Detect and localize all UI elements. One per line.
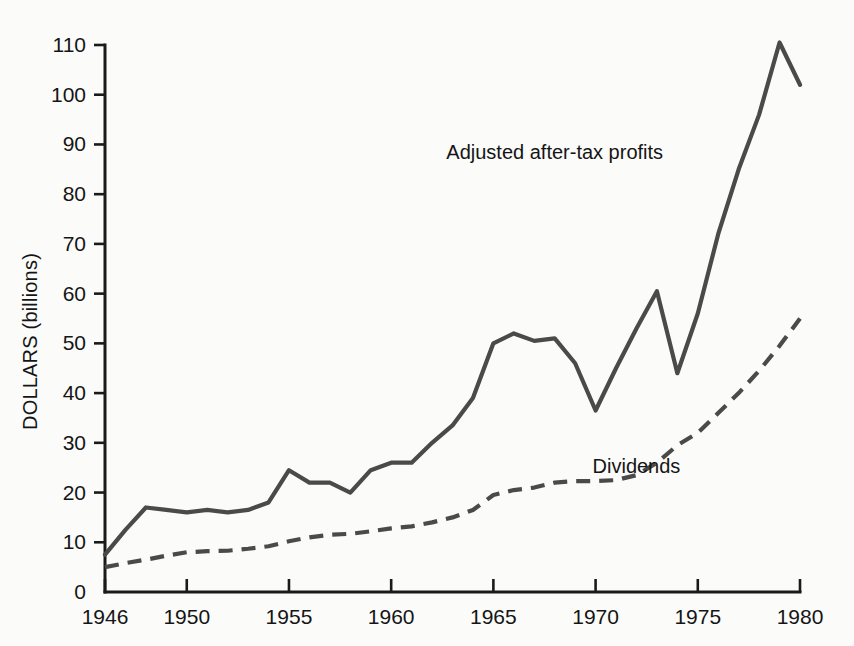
series-annotation-dividends: Dividends	[593, 455, 681, 477]
x-tick-label: 1946	[82, 605, 129, 628]
y-tick-label: 110	[53, 33, 86, 56]
y-axis-title: DOLLARS (billions)	[19, 253, 41, 430]
y-tick-label: 10	[63, 530, 86, 553]
y-tick-label: 30	[63, 431, 86, 454]
y-tick-label: 0	[74, 580, 86, 603]
y-tick-label: 100	[51, 83, 86, 106]
y-tick-label: 50	[63, 331, 86, 354]
y-tick-label: 40	[63, 381, 86, 404]
y-tick-label: 20	[63, 481, 86, 504]
x-tick-label: 1950	[163, 605, 210, 628]
x-tick-label: 1980	[777, 605, 824, 628]
series-line-dividends	[105, 319, 800, 568]
chart-container: 0102030405060708090100110 19461950195519…	[0, 0, 854, 646]
y-tick-label: 60	[63, 282, 86, 305]
y-tick-label: 90	[63, 132, 86, 155]
x-tick-label: 1960	[368, 605, 415, 628]
y-tick-label: 80	[63, 182, 86, 205]
x-axis-tick-labels: 19461950195519601965197019751980	[82, 605, 824, 628]
x-tick-label: 1975	[674, 605, 721, 628]
y-axis-tick-labels: 0102030405060708090100110	[51, 33, 86, 603]
x-tick-label: 1955	[266, 605, 313, 628]
y-tick-label: 70	[63, 232, 86, 255]
line-chart: 0102030405060708090100110 19461950195519…	[0, 0, 854, 646]
series-line-adjusted-after-tax-profits	[105, 43, 800, 555]
series-annotation-adjusted-after-tax-profits: Adjusted after-tax profits	[446, 141, 663, 163]
x-tick-label: 1965	[470, 605, 517, 628]
x-tick-label: 1970	[572, 605, 619, 628]
